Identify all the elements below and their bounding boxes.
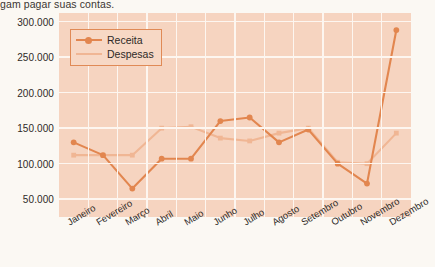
data-point bbox=[217, 118, 223, 124]
legend-item-despesas: Despesas bbox=[76, 47, 154, 61]
legend-marker-receita bbox=[76, 35, 102, 45]
vertical-gridline bbox=[322, 13, 324, 217]
legend-label-receita: Receita bbox=[107, 34, 143, 46]
x-axis-tick-labels: JaneiroFevereiroMarçoAbrilMaioJunhoJulho… bbox=[0, 218, 435, 267]
data-point bbox=[218, 136, 223, 141]
vertical-gridline bbox=[234, 13, 236, 217]
revenue-expenses-line-chart: 50.000100.000150.000200.000250.000300.00… bbox=[0, 0, 435, 267]
data-point bbox=[100, 152, 106, 158]
data-point bbox=[130, 153, 135, 158]
data-point bbox=[393, 27, 399, 33]
data-point bbox=[71, 139, 77, 145]
y-axis-tick: 100.000 bbox=[2, 158, 54, 169]
vertical-gridline bbox=[264, 13, 266, 217]
data-point bbox=[71, 153, 76, 158]
data-point bbox=[247, 139, 252, 144]
data-point bbox=[247, 115, 253, 121]
vertical-gridline bbox=[293, 13, 295, 217]
data-point bbox=[159, 156, 165, 162]
y-axis-tick: 200.000 bbox=[2, 87, 54, 98]
vertical-gridline bbox=[176, 13, 178, 217]
legend-marker-despesas bbox=[76, 49, 102, 59]
vertical-gridline bbox=[205, 13, 207, 217]
legend-label-despesas: Despesas bbox=[107, 48, 154, 60]
y-axis-tick: 50.000 bbox=[2, 194, 54, 205]
vertical-gridline bbox=[352, 13, 354, 217]
data-point bbox=[277, 131, 282, 136]
data-point bbox=[129, 186, 135, 192]
data-point bbox=[394, 131, 399, 136]
data-point bbox=[364, 181, 370, 187]
vertical-gridline bbox=[381, 13, 383, 217]
data-point bbox=[276, 139, 282, 145]
data-point bbox=[188, 156, 194, 162]
y-axis-tick: 250.000 bbox=[2, 52, 54, 63]
chart-legend: Receita Despesas bbox=[70, 29, 162, 66]
legend-item-receita: Receita bbox=[76, 33, 154, 47]
y-axis-tick: 150.000 bbox=[2, 123, 54, 134]
y-axis-tick: 300.000 bbox=[2, 16, 54, 27]
